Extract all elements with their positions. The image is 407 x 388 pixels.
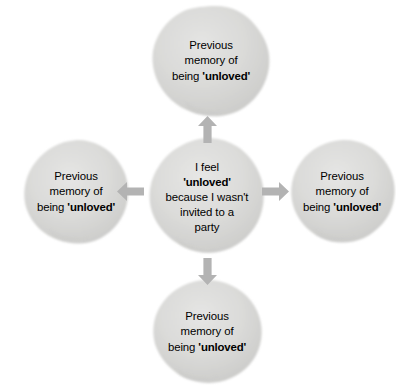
node-center-line-2: 'unloved': [150, 175, 264, 190]
node-center-line-5: party: [150, 220, 264, 235]
node-memory-right-text: Previous memory of being 'unloved': [288, 169, 396, 215]
node-memory-right-line-2: memory of: [292, 184, 392, 199]
arrow-down-icon: [198, 258, 217, 285]
node-memory-left-text: Previous memory of being 'unloved': [22, 169, 130, 215]
node-center-line-4: invited to a: [150, 205, 264, 220]
node-memory-top-line-1: Previous: [154, 38, 268, 53]
node-memory-bottom-line-2: memory of: [152, 324, 262, 339]
node-memory-bottom: Previous memory of being 'unloved': [148, 278, 266, 386]
node-center-thought-text: I feel 'unloved' because I wasn't invite…: [146, 160, 268, 235]
node-memory-top-text: Previous memory of being 'unloved': [150, 38, 272, 84]
node-memory-left: Previous memory of being 'unloved': [22, 138, 130, 246]
node-memory-bottom-text: Previous memory of being 'unloved': [148, 309, 266, 355]
node-memory-right-line-3: being 'unloved': [292, 200, 392, 215]
arrow-right-icon: [262, 182, 289, 201]
node-center-line-3: because I wasn't: [150, 190, 264, 205]
arrow-up-icon: [198, 116, 217, 143]
node-memory-left-line-1: Previous: [26, 169, 126, 184]
node-memory-left-line-3: being 'unloved': [26, 200, 126, 215]
arrow-left-icon: [117, 182, 144, 201]
node-memory-right-line-1: Previous: [292, 169, 392, 184]
node-memory-top-line-2: memory of: [154, 53, 268, 68]
node-memory-bottom-line-1: Previous: [152, 309, 262, 324]
node-memory-right: Previous memory of being 'unloved': [288, 138, 396, 246]
node-center-line-1: I feel: [150, 160, 264, 175]
node-memory-top: Previous memory of being 'unloved': [150, 4, 272, 118]
cycle-diagram: Previous memory of being 'unloved' Previ…: [0, 0, 407, 388]
node-memory-top-line-3: being 'unloved': [154, 69, 268, 84]
node-memory-left-line-2: memory of: [26, 184, 126, 199]
node-memory-bottom-line-3: being 'unloved': [152, 340, 262, 355]
node-center-thought: I feel 'unloved' because I wasn't invite…: [146, 136, 268, 258]
